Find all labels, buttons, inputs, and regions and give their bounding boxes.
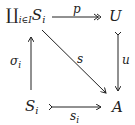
coproduct-object-sub: i xyxy=(42,14,45,25)
bottom-s-sub: i xyxy=(76,115,79,125)
sigma-symbol: σ xyxy=(10,54,18,68)
coproduct-symbol: ∐ xyxy=(6,5,19,24)
label-sigma-i: σi xyxy=(10,55,21,67)
node-coproduct: ∐i∈ISi xyxy=(6,7,45,23)
node-a: A xyxy=(112,100,123,115)
commutative-diagram: ∐i∈ISi U Si A p u s σi si xyxy=(0,0,135,125)
node-u: U xyxy=(109,9,122,24)
arrow-u xyxy=(115,32,121,91)
label-u: u xyxy=(122,54,130,66)
coproduct-index: i∈I xyxy=(19,15,32,25)
coproduct-object: S xyxy=(32,6,42,24)
node-s-i: Si xyxy=(25,99,38,114)
s-i-object: S xyxy=(25,97,35,115)
sigma-sub: i xyxy=(18,60,21,70)
label-s-i-bottom: si xyxy=(70,110,79,122)
label-s: s xyxy=(77,53,83,65)
label-p: p xyxy=(73,3,81,15)
arrow-s xyxy=(42,30,106,93)
